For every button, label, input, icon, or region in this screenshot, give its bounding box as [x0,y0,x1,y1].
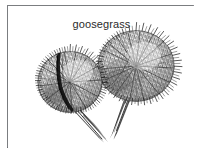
figure-card: goosegrass [0,0,206,156]
figure-caption: goosegrass [8,18,195,31]
figure-frame: goosegrass [7,5,194,148]
